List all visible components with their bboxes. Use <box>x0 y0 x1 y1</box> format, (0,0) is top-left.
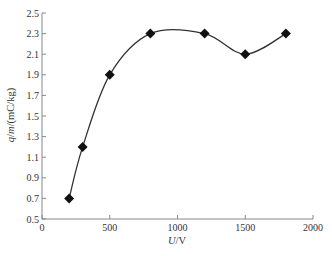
y-tick-label: 1.1 <box>27 152 40 163</box>
y-tick-label: 1.5 <box>27 111 40 122</box>
y-axis-label: q/m/(mC/kg) <box>5 87 17 142</box>
diamond-marker <box>200 29 210 39</box>
diamond-marker <box>281 29 291 39</box>
y-tick-label: 0.5 <box>27 214 40 225</box>
chart: 05001000150020000.50.70.91.11.31.51.71.9… <box>0 0 332 256</box>
diamond-marker <box>105 70 115 80</box>
y-tick-label: 2.1 <box>27 49 40 60</box>
diamond-marker <box>240 49 250 59</box>
y-tick-label: 0.7 <box>27 193 40 204</box>
x-tick-label: 1000 <box>168 222 188 233</box>
series-line <box>69 30 286 199</box>
y-tick-label: 1.9 <box>27 69 40 80</box>
axes <box>42 13 313 219</box>
y-tick-label: 2.5 <box>27 8 40 19</box>
y-tick-label: 1.3 <box>27 131 40 142</box>
data-markers <box>64 29 291 204</box>
y-tick-label: 2.3 <box>27 28 40 39</box>
y-tick-label: 1.7 <box>27 90 40 101</box>
y-tick-label: 0.9 <box>27 172 40 183</box>
x-tick-label: 0 <box>40 222 45 233</box>
x-tick-label: 500 <box>102 222 117 233</box>
x-tick-label: 2000 <box>303 222 323 233</box>
diamond-marker <box>145 29 155 39</box>
data-curve <box>69 30 286 199</box>
diamond-marker <box>78 142 88 152</box>
x-axis-label: U/V <box>168 235 187 246</box>
x-tick-label: 1500 <box>235 222 255 233</box>
diamond-marker <box>64 193 74 203</box>
